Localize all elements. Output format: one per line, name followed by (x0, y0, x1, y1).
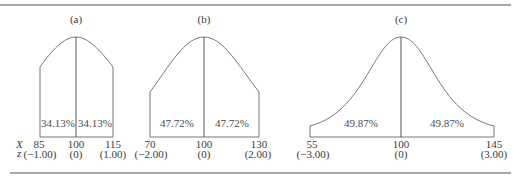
tick-z: (1.00) (100, 148, 127, 161)
panel-b-right-pct: 47.72% (215, 117, 249, 129)
panel-a-label: (a) (70, 13, 83, 26)
tick-z: (0) (70, 148, 83, 161)
tick-z: (−1.00) (24, 148, 57, 161)
panel-c-right-pct: 49.87% (430, 117, 464, 129)
panel-b-left-pct: 47.72% (160, 117, 194, 129)
z-row-label: z (16, 147, 22, 159)
tick-z: (2.00) (245, 148, 272, 161)
tick-z: (0) (198, 148, 211, 161)
panel-c-left-pct: 49.87% (344, 117, 378, 129)
tick-z: (−3.00) (297, 148, 330, 161)
tick-z: (0) (395, 148, 408, 161)
tick-z: (3.00) (481, 148, 508, 161)
panel-c-curve (310, 37, 494, 137)
panel-a-left-pct: 34.13% (41, 117, 75, 129)
panel-b: (b) 47.72% 47.72% 70 100 130 (−2.00) (0)… (135, 13, 272, 161)
panel-c-label: (c) (395, 13, 408, 26)
panel-a-right-pct: 34.13% (78, 117, 112, 129)
panel-c: (c) 49.87% 49.87% 55 100 145 (−3.00) (0)… (297, 13, 508, 161)
panel-b-label: (b) (198, 13, 211, 26)
tick-z: (−2.00) (135, 148, 168, 161)
panel-a: (a) 34.13% 34.13% X z 85 100 115 (−1.00)… (15, 13, 127, 161)
normal-curve-figure: (a) 34.13% 34.13% X z 85 100 115 (−1.00)… (0, 0, 517, 179)
